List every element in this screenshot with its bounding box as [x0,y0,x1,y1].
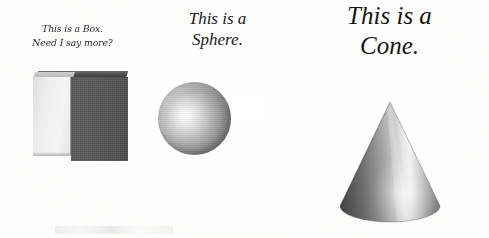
cube-left-face [33,77,71,155]
panel-cone: This is a Cone. [290,0,489,238]
shape-box-cube [33,71,128,159]
cube-left-bottom-shade [33,152,71,156]
caption-box: This is a Box. Need I say more? [5,22,140,49]
caption-cone: This is a Cone. [290,1,489,60]
shape-cone [335,100,445,228]
panel-box: This is a Box. Need I say more? [0,0,145,238]
caption-sphere: This is a Sphere. [145,9,290,50]
shapes-figure: This is a Box. Need I say more? This is … [0,0,489,238]
shape-sphere [158,82,231,155]
cone-svg [335,100,445,228]
panel-sphere: This is a Sphere. [145,0,290,238]
cube-right-face [71,77,128,161]
